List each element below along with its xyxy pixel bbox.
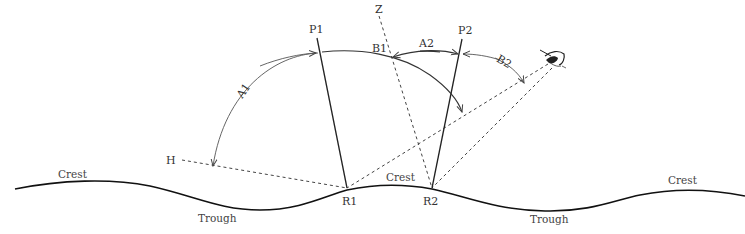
label-crest-right: Crest [668, 174, 698, 186]
label-a1: A1 [233, 81, 253, 102]
label-trough-right: Trough [530, 213, 569, 225]
horizon-line [182, 160, 347, 188]
label-r2: R2 [423, 195, 438, 208]
arc-a1 [213, 53, 318, 166]
arc-b1 [322, 51, 462, 112]
arc-a2 [393, 51, 440, 57]
label-a2: A2 [418, 37, 434, 50]
eye-icon [540, 50, 566, 68]
normal-p1 [317, 38, 347, 188]
label-z: Z [375, 3, 383, 16]
label-p1: P1 [309, 23, 323, 36]
water-surface-wave [15, 181, 745, 211]
normal-p2 [432, 39, 462, 188]
sight-line-r2 [432, 68, 552, 188]
label-trough-left: Trough [198, 212, 237, 224]
label-b1: B1 [372, 42, 387, 55]
label-h: H [166, 154, 176, 167]
reflection-diagram: P1 P2 Z H R1 R2 A1 B1 A2 B2 Crest Crest … [0, 0, 745, 234]
label-b2: B2 [494, 52, 514, 71]
sight-line-r1 [347, 64, 548, 188]
label-crest-left: Crest [58, 168, 88, 180]
label-p2: P2 [458, 24, 472, 37]
arc-b2-left [463, 54, 500, 60]
label-r1: R1 [342, 195, 357, 208]
label-crest-center: Crest [386, 171, 416, 183]
